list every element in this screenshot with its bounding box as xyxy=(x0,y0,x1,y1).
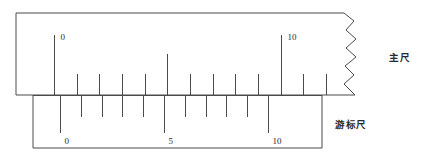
vernier-tick-label-0: 0 xyxy=(65,137,70,146)
vernier-tick-label-10: 10 xyxy=(273,137,282,146)
main-scale-body xyxy=(16,13,356,95)
caliper-drawing xyxy=(0,0,423,162)
main-scale-outline xyxy=(16,13,356,95)
vernier-tick-label-5: 5 xyxy=(169,137,174,146)
main-scale-label: 主尺 xyxy=(389,53,410,63)
main-tick-label-10: 10 xyxy=(288,33,297,42)
vernier-scale-ticks xyxy=(61,95,269,133)
vernier-scale-label: 游标尺 xyxy=(335,120,367,130)
vernier-caliper-diagram: 0100510 主尺 游标尺 xyxy=(0,0,423,162)
main-tick-label-0: 0 xyxy=(61,33,66,42)
main-scale-ticks xyxy=(55,35,327,95)
